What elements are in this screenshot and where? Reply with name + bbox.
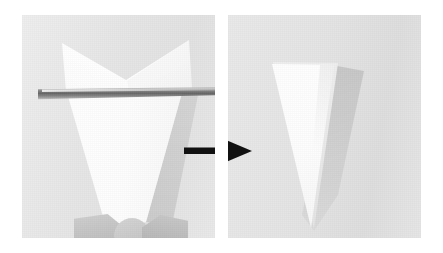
panel-after: [228, 15, 421, 238]
panel-gutter: [215, 0, 228, 253]
panel-before: [22, 15, 215, 238]
figure-root: Paper folding step: trimming a folded sh…: [0, 0, 443, 253]
